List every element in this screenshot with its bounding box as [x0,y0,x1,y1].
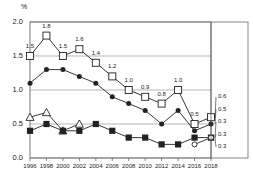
chart-container: % 0.00.51.01.52.0 1996199820002002200420… [0,0,253,184]
chart-plot-area [0,0,253,184]
